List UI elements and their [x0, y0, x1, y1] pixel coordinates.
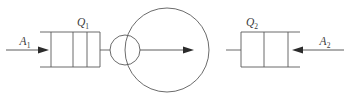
label-flow-left-subscript: 1 — [27, 41, 31, 50]
diagram-canvas: Q1 Q2 A1 A2 — [0, 0, 350, 102]
label-heat-left-subscript: 1 — [85, 22, 89, 31]
output-work-arrowhead — [183, 46, 194, 53]
label-flow-right-subscript: 2 — [327, 41, 331, 50]
label-heat-left: Q1 — [77, 16, 89, 31]
schematic-svg: Q1 Q2 A1 A2 — [0, 0, 350, 102]
label-flow-right: A2 — [319, 35, 331, 50]
label-flow-left: A1 — [19, 35, 31, 50]
label-heat-right: Q2 — [246, 16, 258, 31]
left-inflow-arrowhead — [38, 46, 49, 53]
label-heat-right-subscript: 2 — [254, 22, 258, 31]
right-inflow-arrowhead — [292, 46, 303, 53]
